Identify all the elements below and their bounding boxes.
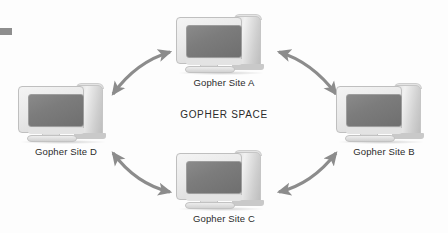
arrow-site-d-site-a <box>113 52 170 94</box>
node-label-site-c: Gopher Site C <box>172 213 276 224</box>
monitor-chin <box>346 128 402 134</box>
node-label-site-b: Gopher Site B <box>332 146 436 157</box>
monitor-bezel <box>176 17 242 64</box>
arrow-site-a-site-b <box>279 52 336 94</box>
monitor-bezel <box>176 153 242 200</box>
node-site-c[interactable]: Gopher Site C <box>172 150 276 224</box>
node-site-b[interactable]: Gopher Site B <box>332 83 436 157</box>
node-site-a[interactable]: Gopher Site A <box>172 14 276 88</box>
monitor-foot <box>185 202 235 209</box>
monitor-chin <box>186 59 242 65</box>
monitor-foot <box>185 66 235 73</box>
node-label-site-a: Gopher Site A <box>172 77 276 88</box>
monitor-foot <box>345 135 395 142</box>
node-label-site-d: Gopher Site D <box>14 146 118 157</box>
gopher-space-diagram: Gopher Site A Gopher Site B <box>0 0 448 233</box>
monitor-screen <box>186 161 242 194</box>
monitor-foot <box>27 135 77 142</box>
monitor-chin <box>186 195 242 201</box>
monitor-chin <box>28 128 84 134</box>
monitor-screen <box>186 25 242 58</box>
arrow-site-b-site-c <box>279 153 336 192</box>
center-caption: GOPHER SPACE <box>0 109 448 120</box>
arrow-site-c-site-d <box>113 153 170 192</box>
computer-icon-site-a <box>172 14 276 76</box>
node-site-d[interactable]: Gopher Site D <box>14 83 118 157</box>
computer-icon-site-c <box>172 150 276 212</box>
